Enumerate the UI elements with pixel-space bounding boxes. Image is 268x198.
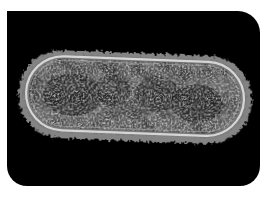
micrograph-panel: Micrograph of a rod-shaped bacterium on … [7,11,260,186]
bacterium-image [7,11,260,186]
